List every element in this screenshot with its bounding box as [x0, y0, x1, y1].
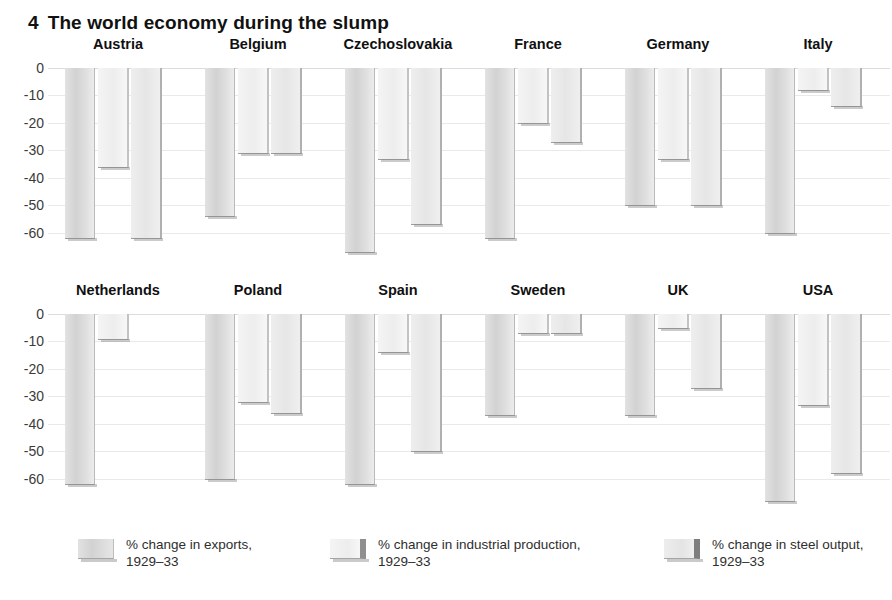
- bar-shadow: [801, 405, 830, 408]
- legend-label-line1: % change in exports,: [126, 537, 252, 552]
- y-axis-tick-label: -20: [24, 361, 44, 377]
- y-axis-tick-label: -50: [24, 197, 44, 213]
- bar-shadow: [208, 216, 237, 219]
- bar-body: [798, 314, 829, 406]
- y-axis-tick-label: -10: [24, 333, 44, 349]
- industrial-production-swatch: [330, 539, 366, 559]
- bar-industrial: [378, 314, 407, 352]
- bar-shadow: [241, 402, 270, 405]
- bar-body: [65, 314, 95, 485]
- bar-industrial: [378, 68, 407, 159]
- bar-shadow: [381, 352, 410, 355]
- bar-exports: [625, 314, 654, 415]
- country-label: France: [468, 36, 608, 52]
- bar-exports: [345, 68, 374, 252]
- bar-body: [691, 314, 722, 389]
- bar-industrial: [798, 314, 827, 405]
- legend-label-line1: % change in steel output,: [712, 537, 864, 552]
- y-axis-tick-label: -20: [24, 115, 44, 131]
- figure-title-text: The world economy during the slump: [48, 12, 389, 33]
- country-label: Czechoslovakia: [328, 36, 468, 52]
- bar-shadow: [661, 159, 690, 162]
- legend-swatch-shadow: [81, 559, 117, 562]
- legend-label-line2: 1929–33: [712, 553, 864, 570]
- bar-shadow: [768, 233, 797, 236]
- bar-steel: [691, 68, 720, 205]
- country-panel: Austria: [48, 52, 188, 277]
- bar-shadow: [554, 333, 583, 336]
- bar-body: [238, 68, 269, 154]
- bar-shadow: [521, 333, 550, 336]
- legend-label: % change in steel output,1929–33: [712, 536, 864, 570]
- country-panel: Belgium: [188, 52, 328, 277]
- y-axis-tick-label: -60: [24, 471, 44, 487]
- chart-row-bottom: 0-10-20-30-40-50-60 NetherlandsPolandSpa…: [0, 298, 892, 530]
- y-axis-tick-label: -30: [24, 388, 44, 404]
- country-label: Poland: [188, 282, 328, 298]
- bar-shadow: [241, 153, 270, 156]
- bar-body: [658, 68, 689, 160]
- legend-label-line2: 1929–33: [378, 553, 581, 570]
- bar-exports: [625, 68, 654, 205]
- y-axis-tick-label: -10: [24, 87, 44, 103]
- bar-body: [798, 68, 829, 91]
- legend-label-line2: 1929–33: [126, 553, 252, 570]
- bar-shadow: [348, 252, 377, 255]
- bar-shadow: [348, 484, 377, 487]
- bar-shadow: [554, 142, 583, 145]
- country-panel: Germany: [608, 52, 748, 277]
- country-label: Sweden: [468, 282, 608, 298]
- y-axis-top: 0-10-20-30-40-50-60: [0, 52, 48, 277]
- bar-shadow: [768, 501, 797, 504]
- bar-shadow: [414, 451, 443, 454]
- bar-body: [625, 314, 655, 416]
- legend-label: % change in industrial production,1929–3…: [378, 536, 581, 570]
- exports-swatch: [78, 539, 114, 559]
- bar-industrial: [98, 68, 127, 167]
- figure-number: 4: [28, 12, 39, 33]
- bar-body: [65, 68, 95, 239]
- plot-area-bottom: NetherlandsPolandSpainSwedenUKUSA: [48, 298, 892, 530]
- bar-steel: [131, 68, 160, 238]
- bar-steel: [271, 68, 300, 153]
- steel-output-swatch: [664, 539, 700, 559]
- page-title: 4The world economy during the slump: [28, 12, 389, 34]
- bar-body: [98, 68, 129, 168]
- bar-shadow: [68, 238, 97, 241]
- bar-shadow: [381, 159, 410, 162]
- bar-body: [205, 68, 235, 217]
- bar-body: [238, 314, 269, 403]
- bar-shadow: [488, 238, 517, 241]
- bar-body: [411, 314, 442, 452]
- bar-body: [411, 68, 442, 225]
- legend-label: % change in exports,1929–33: [126, 536, 252, 570]
- bar-body: [551, 68, 582, 143]
- bar-shadow: [488, 415, 517, 418]
- bar-steel: [411, 68, 440, 224]
- country-label: Germany: [608, 36, 748, 52]
- legend-item-steel: % change in steel output,1929–33: [664, 536, 864, 570]
- legend-swatch-body: [78, 539, 114, 559]
- bar-shadow: [68, 484, 97, 487]
- bar-industrial: [518, 68, 547, 123]
- bar-exports: [345, 314, 374, 484]
- y-axis-tick-label: -50: [24, 443, 44, 459]
- bar-shadow: [661, 328, 690, 331]
- bar-body: [98, 314, 129, 340]
- bar-shadow: [208, 479, 237, 482]
- bar-exports: [765, 314, 794, 501]
- country-panel: Sweden: [468, 298, 608, 530]
- chart-row-top: 0-10-20-30-40-50-60 AustriaBelgiumCzecho…: [0, 52, 892, 277]
- legend-label-line1: % change in industrial production,: [378, 537, 581, 552]
- country-label: Italy: [748, 36, 888, 52]
- bar-shadow: [834, 473, 863, 476]
- country-label: Belgium: [188, 36, 328, 52]
- country-panel: USA: [748, 298, 888, 530]
- bar-body: [378, 68, 409, 160]
- bar-shadow: [834, 106, 863, 109]
- bar-exports: [205, 68, 234, 216]
- bar-exports: [485, 314, 514, 415]
- bar-shadow: [414, 224, 443, 227]
- bar-body: [271, 314, 302, 414]
- bar-industrial: [658, 314, 687, 328]
